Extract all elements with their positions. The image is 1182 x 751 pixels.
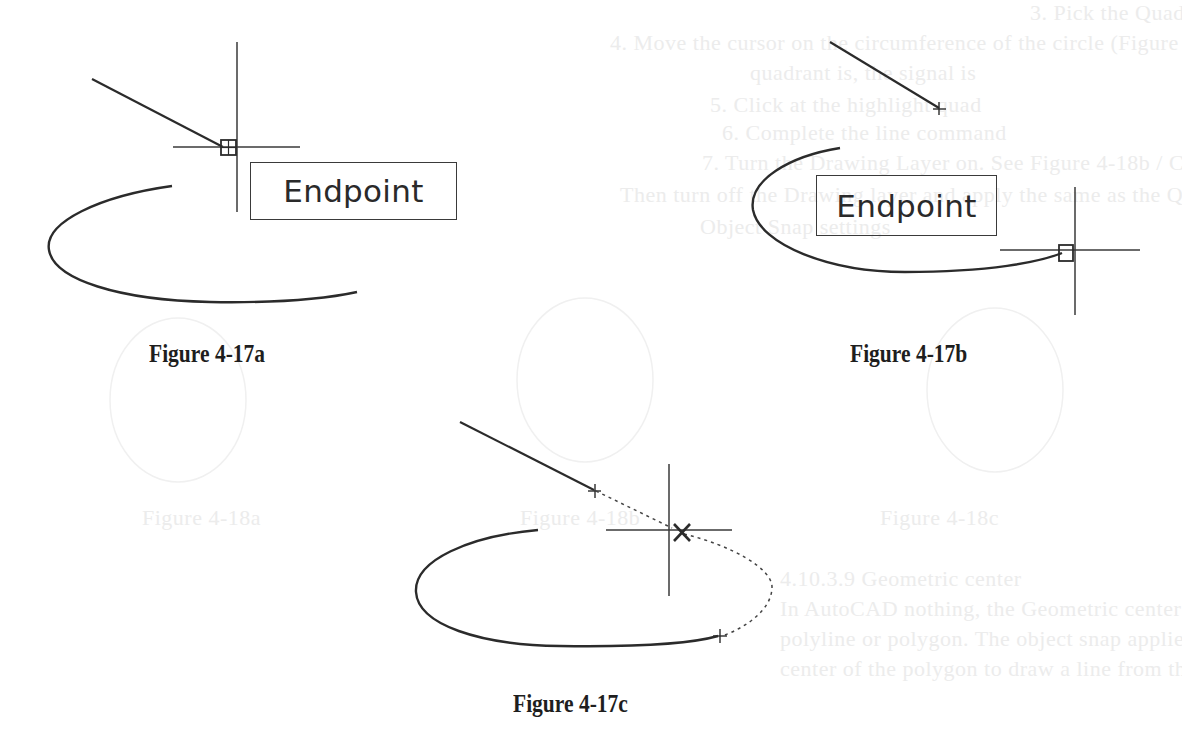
tooltip-label: Endpoint <box>836 188 976 224</box>
extension-line-dotted <box>596 491 672 528</box>
extension-arc-dotted <box>684 534 772 636</box>
arc-entity <box>416 530 718 646</box>
line-entity <box>830 42 939 108</box>
figure-caption: Figure 4-17c <box>513 690 628 718</box>
object-snap-tooltip: Endpoint <box>250 162 457 220</box>
figure-caption: Figure 4-17b <box>850 340 967 368</box>
tooltip-label: Endpoint <box>283 173 423 209</box>
figure-4-17c-drawing <box>416 422 772 646</box>
line-entity <box>460 422 594 490</box>
document-page: 3. Pick the Quadrant option 4. Move the … <box>0 0 1182 751</box>
line-entity <box>92 79 223 147</box>
endpoint-snap-marker-icon <box>221 140 236 155</box>
grip-plus-icon <box>588 484 601 498</box>
extended-intersection-x-icon <box>674 524 690 541</box>
figure-caption: Figure 4-17a <box>149 340 265 368</box>
cad-figures <box>0 0 1182 751</box>
object-snap-tooltip: Endpoint <box>816 175 997 236</box>
grip-plus-icon <box>933 102 946 115</box>
grip-plus-icon <box>713 629 727 643</box>
